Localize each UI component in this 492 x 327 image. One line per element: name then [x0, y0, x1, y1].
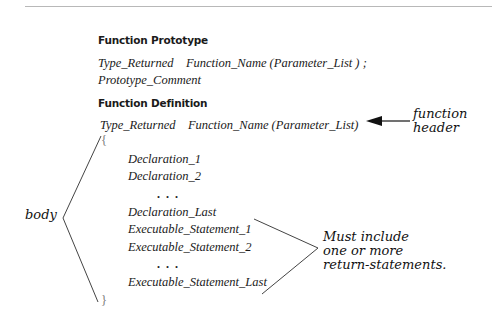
body-bracket	[63, 136, 101, 302]
annotation-lines	[0, 0, 492, 327]
arrow-left-icon	[366, 116, 382, 126]
return-bracket	[254, 219, 318, 294]
